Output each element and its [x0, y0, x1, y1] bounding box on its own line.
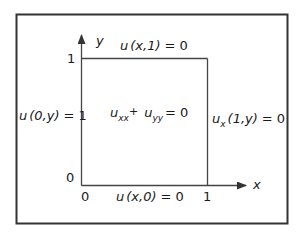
bc-left: u(0,y)= 1: [19, 108, 87, 123]
bc-top-func: u: [120, 38, 128, 53]
bc-top-args: (x,1): [130, 38, 160, 53]
bc-left-args: (0,y): [29, 108, 59, 123]
bc-right-rhs: = 0: [262, 111, 285, 126]
bc-bottom-rhs: = 0: [161, 189, 184, 204]
bc-right-sub: x: [219, 119, 226, 129]
bc-right: ux(1,y)= 0: [212, 111, 285, 129]
bc-top-rhs: = 0: [165, 38, 188, 53]
x-axis-label: x: [252, 177, 261, 192]
laplace-domain-diagram: y x 1 0 0 1 u(x,1)= 0 u(0,y)= 1 uxx+uyy=…: [0, 0, 304, 237]
pde-u1: u: [110, 105, 118, 120]
bc-left-rhs: = 1: [64, 108, 87, 123]
bc-left-func: u: [19, 108, 27, 123]
pde-u2: u: [144, 105, 152, 120]
bc-bottom: u(x,0)= 0: [116, 189, 184, 204]
y-tick-0: 0: [66, 170, 74, 185]
bc-bottom-args: (x,0): [126, 189, 156, 204]
y-axis-label: y: [95, 33, 104, 48]
pde-rhs: = 0: [165, 105, 188, 120]
bc-right-args: (1,y): [228, 111, 258, 126]
y-tick-1: 1: [67, 51, 75, 66]
pde-equation: uxx+uyy= 0: [110, 105, 188, 123]
x-tick-1: 1: [203, 189, 211, 204]
pde-plus: +: [129, 105, 138, 118]
pde-sub2: yy: [151, 113, 163, 123]
pde-sub1: xx: [117, 113, 129, 123]
bc-top: u(x,1)= 0: [120, 38, 188, 53]
x-tick-0: 0: [81, 189, 89, 204]
bc-bottom-func: u: [116, 189, 124, 204]
bc-right-func: u: [212, 111, 220, 126]
